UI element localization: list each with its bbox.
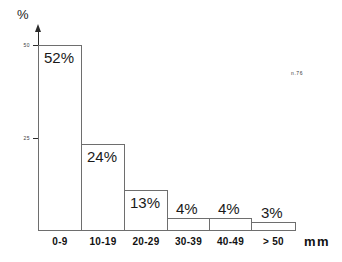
- bar-value-40-49: 4%: [218, 200, 240, 217]
- bar-40-49: [209, 218, 252, 231]
- bar-value-30-39: 4%: [176, 200, 198, 217]
- x-tick-label-over-50: > 50: [251, 236, 296, 247]
- bar-value-20-29: 13%: [130, 194, 160, 211]
- bar-value-over-50: 3%: [261, 204, 283, 221]
- bar-value-0-9: 52%: [44, 49, 74, 66]
- sample-size-annotation: n.76: [291, 70, 303, 76]
- x-tick-label-20-29: 20-29: [124, 236, 168, 247]
- bar-30-39: [167, 218, 210, 231]
- y-tick-label-25: 25: [14, 135, 30, 141]
- y-axis-title: %: [17, 7, 29, 22]
- x-tick-label-30-39: 30-39: [167, 236, 210, 247]
- x-tick-label-10-19: 10-19: [81, 236, 125, 247]
- y-tick-label-50: 50: [14, 42, 30, 48]
- x-axis-unit-label: mm: [304, 234, 330, 249]
- histogram-figure: % 50 25 52% 24% 13% 4% 4% 3% 0-9 10-19 2…: [0, 0, 342, 262]
- bar-value-10-19: 24%: [87, 148, 117, 165]
- bar-0-9: [38, 45, 82, 231]
- bar-over-50: [251, 222, 296, 231]
- x-tick-label-40-49: 40-49: [209, 236, 252, 247]
- x-tick-label-0-9: 0-9: [38, 236, 82, 247]
